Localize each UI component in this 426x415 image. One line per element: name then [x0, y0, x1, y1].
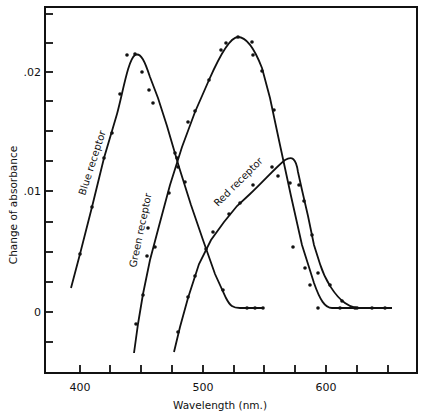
x-axis-ticks — [80, 365, 388, 373]
x-axis-label: Wavelength (nm.) — [173, 399, 267, 411]
x-tick-500: 500 — [193, 381, 214, 394]
y-axis-label: Change of absorbance — [7, 146, 19, 264]
green-receptor-label: Green receptor — [127, 191, 154, 268]
red-receptor-curve — [174, 158, 392, 352]
y-axis-ticks — [45, 14, 53, 342]
x-tick-400: 400 — [70, 381, 91, 394]
red-receptor-label: Red receptor — [212, 154, 266, 208]
x-tick-600: 600 — [316, 381, 337, 394]
y-tick-02: .02 — [24, 66, 42, 79]
y-tick-01: .01 — [24, 185, 42, 198]
y-tick-0: 0 — [34, 306, 41, 319]
absorbance-chart: 400 500 600 0 .01 .02 Wavelength (nm.) C… — [0, 0, 426, 415]
